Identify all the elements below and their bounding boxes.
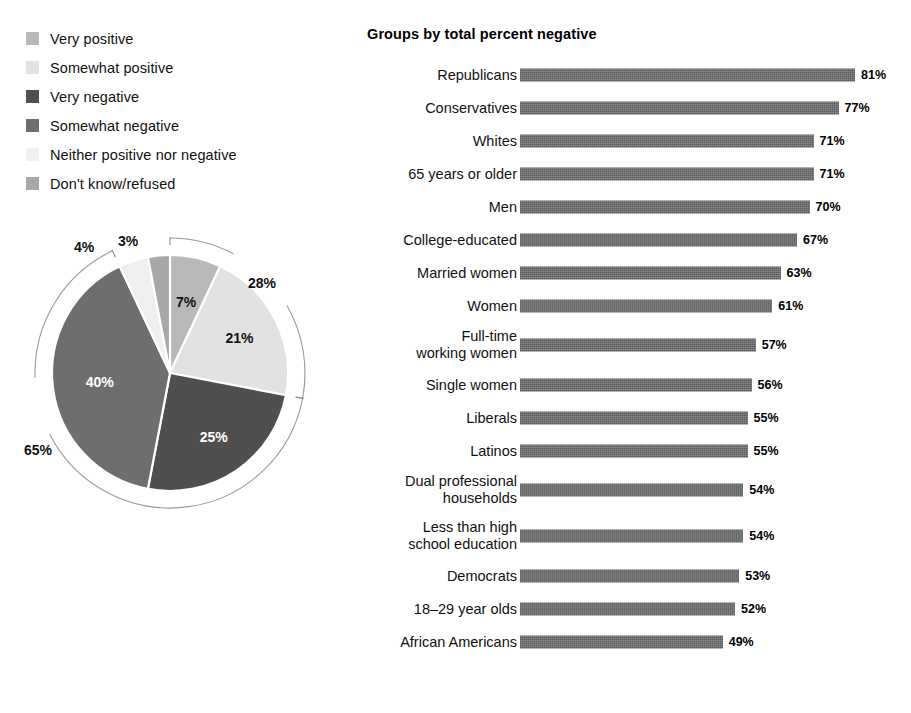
bar-row: Men70% (366, 190, 911, 223)
legend-swatch-icon (26, 61, 39, 74)
bar-category-label: African Americans (297, 633, 517, 650)
bar-fill (520, 602, 735, 615)
bar-row: Republicans81% (366, 58, 911, 91)
bar-value-label: 52% (741, 602, 766, 616)
bar-row: 65 years or older71% (366, 157, 911, 190)
bar-fill (520, 411, 748, 424)
bar-track (520, 569, 900, 582)
bar-row: Less than high school education54% (366, 513, 911, 559)
bar-track (520, 299, 900, 312)
legend-swatch-icon (26, 32, 39, 45)
bar-row: Liberals55% (366, 401, 911, 434)
bar-track (520, 200, 900, 213)
bar-value-label: 77% (845, 101, 870, 115)
bar-category-label: Democrats (297, 567, 517, 584)
bar-fill (520, 68, 855, 81)
bar-row: Single women56% (366, 368, 911, 401)
bar-value-label: 55% (754, 444, 779, 458)
bar-category-label: Whites (297, 132, 517, 149)
bar-value-label: 57% (762, 338, 787, 352)
bar-category-label: 65 years or older (297, 165, 517, 182)
bar-category-label: Women (297, 297, 517, 314)
bar-row: Whites71% (366, 124, 911, 157)
bar-value-label: 53% (745, 569, 770, 583)
legend-swatch-icon (26, 148, 39, 161)
bar-fill (520, 167, 814, 180)
bar-row: Latinos55% (366, 434, 911, 467)
bar-value-label: 63% (787, 266, 812, 280)
bar-track (520, 635, 900, 648)
bar-track (520, 411, 900, 424)
bar-value-label: 71% (820, 134, 845, 148)
legend-item-label: Very positive (50, 31, 134, 47)
pie-slice-value: 25% (200, 429, 229, 445)
pie-total-negative-label: 65% (24, 442, 53, 458)
bar-category-label: Full-time working women (297, 328, 517, 362)
bar-chart-title: Groups by total percent negative (367, 26, 911, 42)
bar-row: Democrats53% (366, 559, 911, 592)
pie-total-positive-label: 28% (248, 275, 277, 291)
bar-fill (520, 635, 723, 648)
bar-value-label: 54% (749, 483, 774, 497)
legend-swatch-icon (26, 177, 39, 190)
bar-fill (520, 484, 743, 497)
legend-item: Somewhat negative (26, 111, 326, 140)
bar-track (520, 266, 900, 279)
bar-row: Married women63% (366, 256, 911, 289)
bar-chart: Groups by total percent negative Republi… (366, 26, 911, 706)
bar-value-label: 49% (729, 635, 754, 649)
bar-value-label: 56% (758, 378, 783, 392)
bar-category-label: Dual professional households (297, 473, 517, 507)
bar-row: Full-time working women57% (366, 322, 911, 368)
bar-track (520, 339, 900, 352)
bar-chart-rows: Republicans81%Conservatives77%Whites71%6… (366, 58, 911, 658)
bar-fill (520, 266, 781, 279)
bar-fill (520, 530, 743, 543)
pie-bracket-arc (170, 238, 233, 254)
legend-item-label: Neither positive nor negative (50, 147, 237, 163)
legend-item-label: Don't know/refused (50, 176, 175, 192)
bar-value-label: 70% (816, 200, 841, 214)
bar-fill (520, 378, 752, 391)
bar-track (520, 530, 900, 543)
bar-fill (520, 200, 810, 213)
pie-slice-value: 40% (86, 374, 115, 390)
pie-legend: Very positiveSomewhat positiveVery negat… (26, 24, 326, 198)
bar-fill (520, 134, 814, 147)
bar-value-label: 54% (749, 529, 774, 543)
bar-value-label: 81% (861, 68, 886, 82)
legend-item: Very positive (26, 24, 326, 53)
legend-item: Somewhat positive (26, 53, 326, 82)
legend-swatch-icon (26, 90, 39, 103)
bar-track (520, 378, 900, 391)
bar-category-label: Less than high school education (297, 519, 517, 553)
bar-category-label: Conservatives (297, 99, 517, 116)
bar-category-label: Married women (297, 264, 517, 281)
bar-value-label: 61% (778, 299, 803, 313)
bar-category-label: Latinos (297, 442, 517, 459)
bar-category-label: 18–29 year olds (297, 600, 517, 617)
pie-bracket-tick (112, 250, 115, 257)
bar-fill (520, 299, 772, 312)
bar-category-label: Single women (297, 376, 517, 393)
pie-slice-value: 4% (74, 239, 95, 255)
bar-track (520, 602, 900, 615)
legend-item-label: Somewhat negative (50, 118, 179, 134)
pie-slice-value: 3% (118, 233, 139, 249)
bar-track (520, 444, 900, 457)
bar-fill (520, 444, 748, 457)
bar-category-label: Republicans (297, 66, 517, 83)
bar-category-label: College-educated (297, 231, 517, 248)
pie-slice-value: 7% (176, 294, 197, 310)
legend-item: Neither positive nor negative (26, 140, 326, 169)
bar-row: Dual professional households54% (366, 467, 911, 513)
bar-category-label: Liberals (297, 409, 517, 426)
bar-fill (520, 569, 739, 582)
bar-row: College-educated67% (366, 223, 911, 256)
bar-row: Women61% (366, 289, 911, 322)
legend-item-label: Somewhat positive (50, 60, 173, 76)
bar-row: Conservatives77% (366, 91, 911, 124)
bar-fill (520, 233, 797, 246)
legend-item: Very negative (26, 82, 326, 111)
legend-item-label: Very negative (50, 89, 139, 105)
